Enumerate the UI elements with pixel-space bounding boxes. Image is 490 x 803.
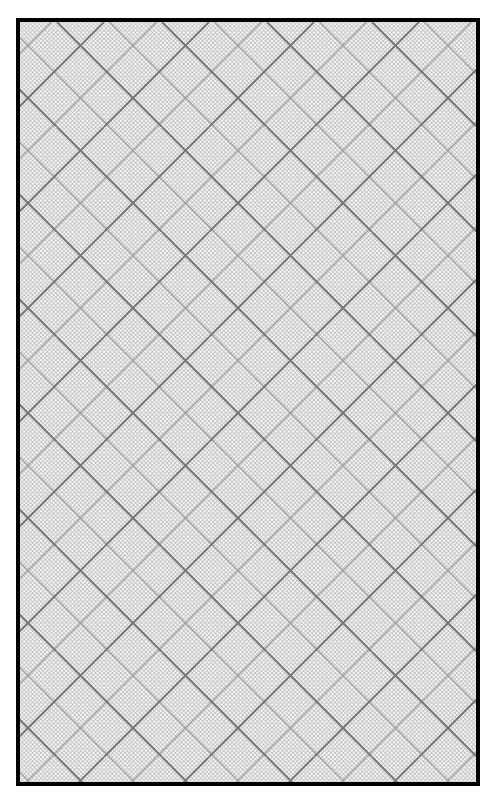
page: [0, 0, 490, 803]
diagonal-grid-pattern: [20, 22, 476, 782]
grid-paper-frame: [16, 18, 480, 786]
